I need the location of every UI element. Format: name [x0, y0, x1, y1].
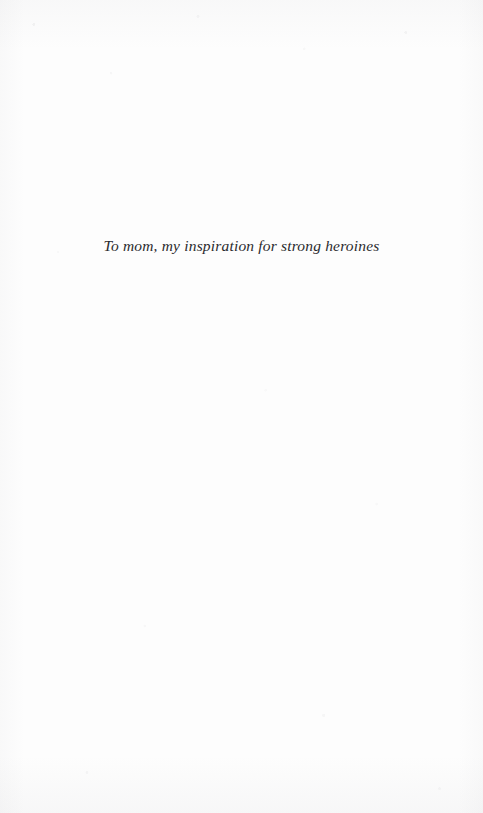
- paper-edge-shading: [0, 0, 483, 813]
- dedication-text: To mom, my inspiration for strong heroin…: [104, 236, 380, 256]
- paper-grain-texture: [0, 0, 483, 813]
- dedication-block: To mom, my inspiration for strong heroin…: [0, 236, 483, 256]
- book-page: To mom, my inspiration for strong heroin…: [0, 0, 483, 813]
